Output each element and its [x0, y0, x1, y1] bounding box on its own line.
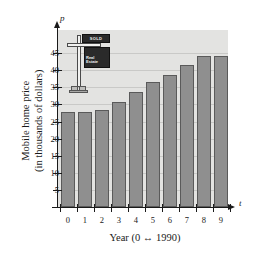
- x-tick-8: [196, 204, 197, 212]
- bar-7: [180, 65, 194, 207]
- x-tick-5: [145, 204, 146, 212]
- x-tick-7: [179, 204, 180, 212]
- bar-1: [78, 112, 92, 207]
- real-estate-sign-illustration: SOLD Real Estate: [66, 31, 116, 93]
- bar-chart: SOLD Real Estate p t 51015202530354045 0…: [0, 0, 258, 261]
- bar-3: [112, 102, 126, 207]
- y-axis-title-line-2: (in thousands of dollars): [33, 31, 46, 211]
- x-tick-9: [213, 204, 214, 212]
- sign-base-plate: [69, 90, 88, 93]
- y-axis-title: Mobile home price (in thousands of dolla…: [20, 31, 46, 211]
- bar-4: [129, 92, 143, 207]
- x-tick-end: [230, 204, 231, 212]
- bar-0: [61, 112, 75, 207]
- x-tick-1: [77, 204, 78, 212]
- x-tick-4: [128, 204, 129, 212]
- sold-plate: SOLD: [82, 34, 110, 43]
- x-axis-title: Year (0 ↔ 1990): [40, 232, 250, 243]
- x-tick-2: [94, 204, 95, 212]
- sold-label: SOLD: [90, 37, 103, 41]
- y-axis-title-line-1: Mobile home price: [20, 31, 33, 211]
- bar-6: [163, 75, 177, 207]
- x-tick-3: [111, 204, 112, 212]
- x-tick-label-9: 9: [211, 216, 231, 225]
- bar-5: [146, 82, 160, 207]
- y-axis-variable-label: p: [60, 13, 65, 23]
- x-axis-variable-label: t: [239, 198, 242, 208]
- bar-8: [197, 56, 211, 207]
- real-estate-plate: Real Estate: [84, 47, 110, 68]
- x-axis-line: [52, 207, 228, 208]
- brand-line-2: Estate: [85, 60, 98, 65]
- x-tick-6: [162, 204, 163, 212]
- bar-2: [95, 110, 109, 208]
- x-tick-0: [60, 204, 61, 212]
- bar-9: [214, 56, 228, 207]
